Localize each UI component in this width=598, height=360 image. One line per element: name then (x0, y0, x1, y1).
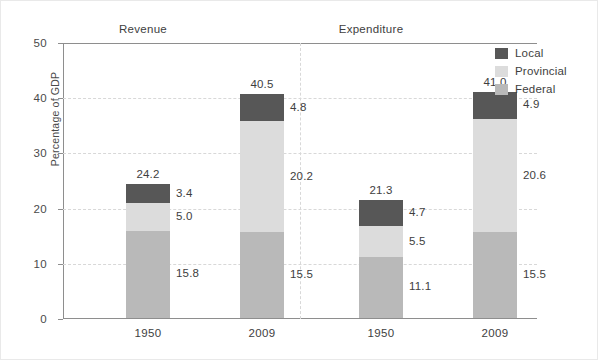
legend-swatch-icon (495, 84, 508, 95)
bar-segment-local[interactable] (240, 94, 284, 120)
legend-item-federal[interactable]: Federal (495, 81, 567, 97)
bar-segment-federal[interactable] (126, 231, 170, 318)
y-axis-tick (58, 153, 63, 154)
y-axis-tick-label: 20 (1, 203, 47, 215)
bar-segment-local[interactable] (359, 200, 403, 226)
plot-area: 24.215.85.03.440.515.520.24.821.311.15.5… (63, 43, 537, 319)
y-axis-tick-label: 30 (1, 147, 47, 159)
segment-value-label-federal: 15.8 (176, 267, 199, 279)
stacked-bar[interactable] (359, 200, 403, 318)
stacked-bar[interactable] (240, 94, 284, 318)
segment-value-label-local: 3.4 (176, 187, 193, 199)
segment-value-label-provincial: 20.6 (523, 169, 546, 181)
segment-value-label-federal: 11.1 (409, 280, 431, 292)
legend-swatch-icon (495, 66, 508, 77)
segment-value-label-federal: 15.5 (290, 268, 313, 280)
bar-segment-provincial[interactable] (359, 226, 403, 256)
segment-value-label-local: 4.9 (523, 98, 540, 110)
bar-segment-federal[interactable] (359, 257, 403, 318)
segment-value-label-local: 4.8 (290, 101, 307, 113)
y-axis-tick-labels: 01020304050 (1, 43, 57, 319)
legend-label: Federal (515, 83, 555, 95)
y-axis-tick-label: 10 (1, 258, 47, 270)
y-axis-line (63, 43, 64, 319)
segment-value-label-provincial: 5.5 (409, 235, 426, 247)
segment-value-label-provincial: 5.0 (176, 210, 193, 222)
chart-legend: LocalProvincialFederal (495, 45, 567, 99)
segment-value-label-local: 4.7 (409, 206, 426, 218)
segment-value-label-provincial: 20.2 (290, 170, 313, 182)
y-axis-tick (58, 209, 63, 210)
legend-label: Local (515, 47, 544, 59)
legend-item-local[interactable]: Local (495, 45, 567, 61)
bar-total-label: 24.2 (126, 168, 170, 180)
stacked-bar[interactable] (473, 92, 517, 318)
x-axis-tick-label: 2009 (232, 327, 292, 339)
bar-total-label: 21.3 (359, 184, 403, 196)
stacked-bar[interactable] (126, 184, 170, 318)
bar-segment-provincial[interactable] (473, 119, 517, 233)
bar-segment-federal[interactable] (240, 232, 284, 318)
y-axis-tick (58, 264, 63, 265)
segment-value-label-federal: 15.5 (523, 268, 546, 280)
bar-segment-federal[interactable] (473, 232, 517, 318)
x-axis-tick-label: 1950 (118, 327, 178, 339)
y-axis-tick-label: 0 (1, 313, 47, 325)
bar-segment-provincial[interactable] (126, 203, 170, 231)
panel-title-revenue: Revenue (63, 23, 223, 35)
chart-figure: Percentage of GDP 01020304050 Revenue Ex… (0, 0, 598, 360)
y-axis-tick (58, 98, 63, 99)
y-axis-tick (58, 319, 63, 320)
x-axis-tick-label: 1950 (351, 327, 411, 339)
bar-segment-local[interactable] (126, 184, 170, 203)
y-axis-tick-label: 50 (1, 37, 47, 49)
legend-label: Provincial (515, 65, 567, 77)
legend-swatch-icon (495, 48, 508, 59)
bar-total-label: 40.5 (240, 78, 284, 90)
y-axis-tick (58, 43, 63, 44)
x-axis-tick-label: 2009 (465, 327, 525, 339)
y-axis-tick-label: 40 (1, 92, 47, 104)
legend-item-provincial[interactable]: Provincial (495, 63, 567, 79)
panel-title-expenditure: Expenditure (291, 23, 451, 35)
bar-segment-provincial[interactable] (240, 121, 284, 233)
